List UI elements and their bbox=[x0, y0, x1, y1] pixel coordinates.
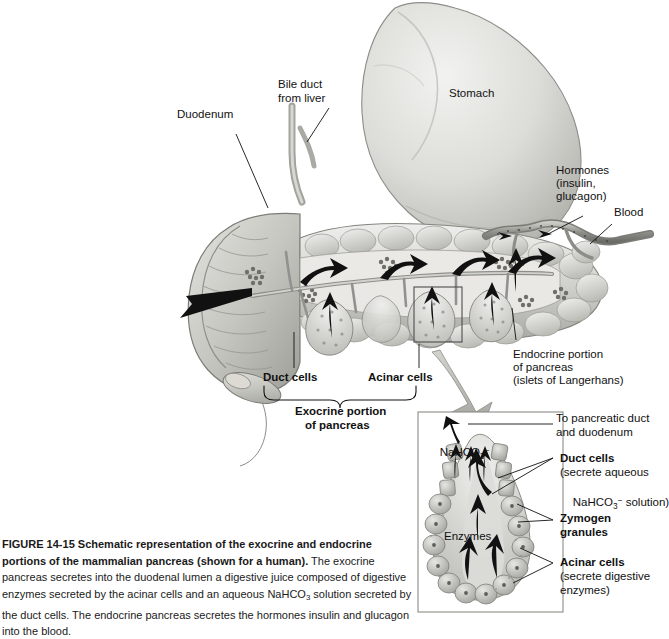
callout-zymogen-line1: Zymogen bbox=[560, 512, 611, 526]
label-stomach: Stomach bbox=[449, 87, 494, 101]
figure-number: FIGURE 14-15 bbox=[2, 538, 75, 550]
duodenum-organ bbox=[188, 214, 300, 466]
callout-acinar-line2: (secrete digestive bbox=[560, 570, 650, 584]
bile-duct bbox=[292, 106, 314, 202]
callout-to-duct-line2: and duodenum bbox=[556, 426, 633, 440]
caption-body-part3a: cells and an aqueous NaHCO bbox=[160, 588, 306, 600]
label-endocrine-line2: of pancreas bbox=[513, 361, 573, 375]
callout-duct-cells-line1: Duct cells bbox=[560, 452, 614, 466]
label-bile-duct-line1: Bile duct bbox=[278, 78, 322, 92]
label-duct-cells: Duct cells bbox=[263, 371, 317, 385]
label-endocrine-line3: (islets of Langerhans) bbox=[513, 374, 624, 388]
label-exocrine-line1: Exocrine portion bbox=[295, 405, 386, 419]
callout-to-duct-line1: To pancreatic duct bbox=[556, 412, 649, 426]
stomach-organ bbox=[362, 3, 581, 246]
label-hormones-line2: (insulin, bbox=[556, 177, 596, 191]
label-bile-duct-line2: from liver bbox=[278, 92, 325, 106]
callout-duct-cells-line2: (secrete aqueous bbox=[560, 466, 649, 480]
label-endocrine-line1: Endocrine portion bbox=[513, 348, 603, 362]
label-acinar-cells: Acinar cells bbox=[368, 371, 433, 385]
callout-acinar-line3: enzymes) bbox=[560, 584, 610, 598]
label-duodenum: Duodenum bbox=[177, 108, 233, 122]
label-exocrine-line2: of pancreas bbox=[305, 419, 370, 433]
callout-acinar-line1: Acinar cells bbox=[560, 556, 625, 570]
label-hormones-line1: Hormones bbox=[556, 164, 609, 178]
label-hormones-line3: glucagon) bbox=[556, 190, 607, 204]
figure-caption: FIGURE 14-15 Schematic representation of… bbox=[2, 536, 418, 639]
label-enzymes-inset: Enzymes bbox=[444, 530, 491, 544]
label-nahco3-inset: NaHCO3− bbox=[427, 430, 489, 476]
label-blood: Blood bbox=[614, 206, 643, 220]
nahco3-text: NaHCO bbox=[440, 446, 480, 458]
callout-nahco3-text: NaHCO bbox=[573, 496, 613, 508]
callout-zymogen-line2: granules bbox=[560, 526, 608, 540]
nahco3-superscript: − bbox=[485, 446, 490, 455]
callout-nahco3-suffix: solution) bbox=[622, 496, 669, 508]
